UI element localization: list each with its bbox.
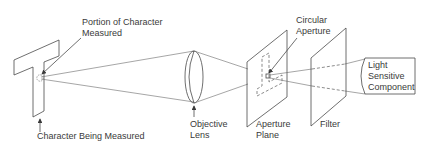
label-lens-1: Objective	[190, 119, 228, 129]
character-t-shape	[14, 40, 59, 117]
aperture-plane	[247, 30, 287, 127]
label-character: Character Being Measured	[37, 131, 145, 141]
filter-plane	[311, 28, 346, 126]
portion-leader-arrow	[42, 38, 81, 74]
label-aperture-plane-1: Aperture	[256, 119, 291, 129]
label-sensor-3: Component	[368, 82, 415, 92]
label-aperture-plane-2: Plane	[256, 130, 279, 140]
optical-diagram: Portion of Character Measured Character …	[0, 0, 429, 151]
ray-top-3	[270, 69, 312, 75]
portion-measured-circle	[37, 75, 43, 81]
label-portion-2: Measured	[82, 28, 122, 38]
ray-bottom-5	[345, 91, 365, 94]
label-lens-2: Lens	[190, 130, 210, 140]
ray-top-1	[41, 51, 194, 77]
ray-bottom-1	[41, 79, 194, 102]
label-sensor-2: Sensitive	[368, 71, 405, 81]
ray-bottom-3	[270, 78, 312, 86]
label-filter: Filter	[320, 119, 340, 129]
ray-bottom-4	[312, 86, 345, 91]
label-circular-2: Aperture	[296, 26, 331, 36]
objective-lens	[185, 51, 203, 103]
circular-aperture-leader	[269, 38, 297, 73]
label-circular-1: Circular	[296, 15, 327, 25]
ray-top-4	[312, 64, 345, 69]
label-sensor-1: Light	[368, 60, 388, 70]
circular-aperture	[266, 74, 270, 78]
ray-top-5	[345, 59, 365, 64]
label-portion-1: Portion of Character	[82, 17, 163, 27]
